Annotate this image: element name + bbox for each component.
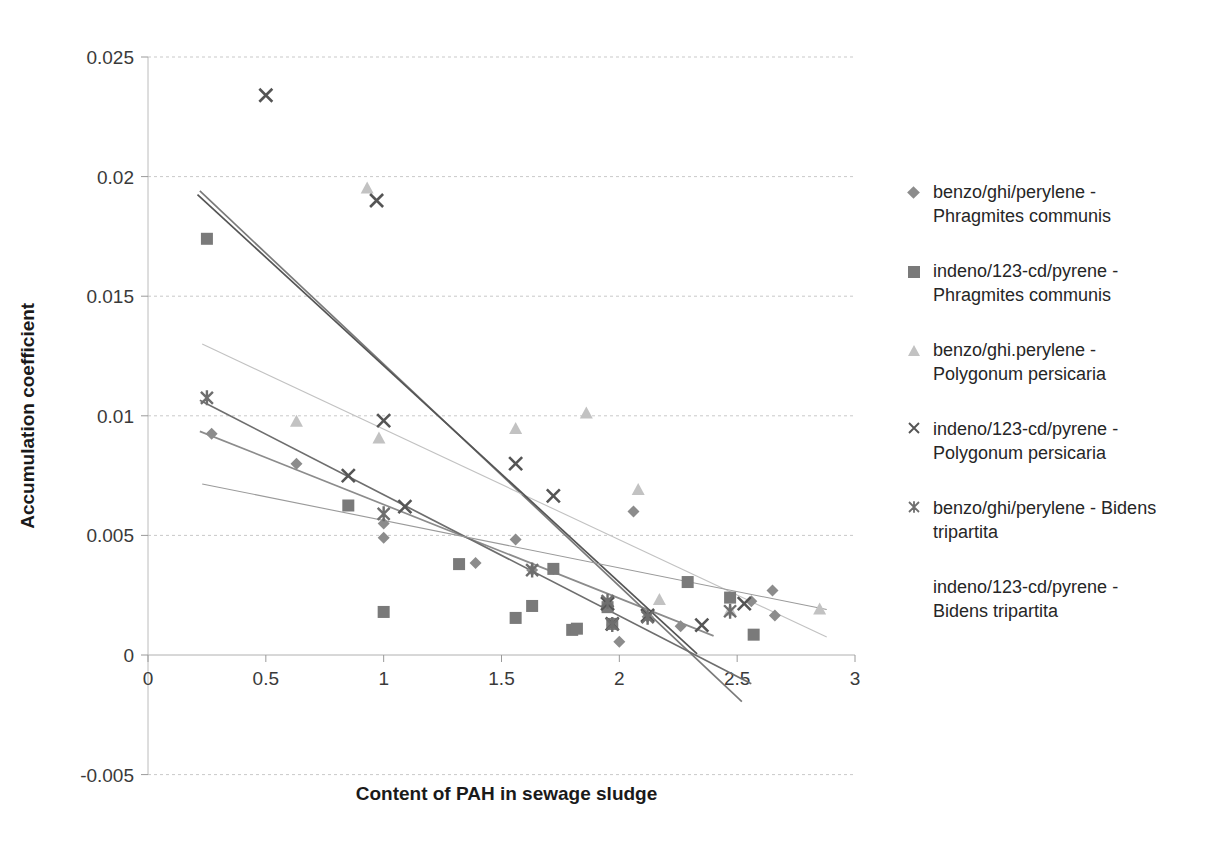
data-point xyxy=(653,593,666,605)
data-point xyxy=(724,592,736,604)
data-point xyxy=(632,483,645,495)
data-point xyxy=(767,584,779,596)
legend-item-label: indeno/123-cd/pyrene - Phragmites commun… xyxy=(933,259,1118,307)
legend-item[interactable]: indeno/123-cd/pyrene - Polygonum persica… xyxy=(905,417,1225,465)
data-point xyxy=(510,533,522,545)
legend-marker-square-icon xyxy=(905,261,927,283)
data-point xyxy=(378,532,390,544)
y-tick-label: 0.015 xyxy=(86,286,134,307)
data-point xyxy=(510,612,522,624)
legend-item[interactable]: indeno/123-cd/pyrene - Bidens tripartita xyxy=(905,575,1225,623)
data-point xyxy=(259,89,272,102)
chart-legend: benzo/ghi/perylene - Phragmites communis… xyxy=(905,180,1225,654)
legend-marker-cross-icon xyxy=(905,419,927,441)
data-point xyxy=(470,557,482,569)
data-point xyxy=(342,469,355,482)
data-point xyxy=(627,505,639,517)
gridlines xyxy=(148,57,855,775)
y-tick-label: 0.01 xyxy=(97,406,134,427)
data-point xyxy=(509,457,522,470)
x-axis-title: Content of PAH in sewage sludge xyxy=(356,783,658,804)
data-point xyxy=(453,558,465,570)
y-tick-label: -0.005 xyxy=(80,765,134,786)
legend-marker-triangle-icon xyxy=(905,340,927,362)
legend-item-label: indeno/123-cd/pyrene - Polygonum persica… xyxy=(933,417,1118,465)
data-point xyxy=(372,432,385,444)
data-point xyxy=(724,604,736,619)
data-point xyxy=(682,576,694,588)
x-tick-label: 3 xyxy=(850,668,861,689)
legend-item-label: benzo/ghi/perylene - Bidens tripartita xyxy=(933,496,1156,544)
x-tick-label: 2 xyxy=(614,668,625,689)
y-tick-label: 0 xyxy=(123,645,134,666)
data-point xyxy=(290,415,303,427)
trendline xyxy=(200,431,714,636)
legend-marker-star-icon xyxy=(905,498,927,520)
y-tick-label: 0.025 xyxy=(86,47,134,68)
y-tick-label: 0.02 xyxy=(97,167,134,188)
legend-item[interactable]: benzo/ghi/perylene - Phragmites communis xyxy=(905,180,1225,228)
x-tick-label: 1.5 xyxy=(488,668,514,689)
trendline xyxy=(197,195,697,654)
y-tick-labels: -0.00500.0050.010.0150.020.025 xyxy=(80,47,134,786)
plot-canvas: -0.00500.0050.010.0150.020.02500.511.522… xyxy=(0,0,880,846)
data-point xyxy=(378,506,390,521)
data-point xyxy=(201,390,213,405)
data-point xyxy=(613,636,625,648)
data-point xyxy=(526,600,538,612)
legend-item[interactable]: benzo/ghi/perylene - Bidens tripartita xyxy=(905,496,1225,544)
data-point xyxy=(675,620,687,632)
x-tick-labels: 00.511.522.53 xyxy=(143,668,861,689)
data-point xyxy=(378,606,390,618)
trendline xyxy=(202,484,827,610)
data-point xyxy=(370,194,383,207)
x-tick-label: 1 xyxy=(378,668,389,689)
legend-marker-diamond-icon xyxy=(905,182,927,204)
data-points xyxy=(201,89,826,648)
legend-marker-none-icon xyxy=(905,577,927,599)
scatter-chart: -0.00500.0050.010.0150.020.02500.511.522… xyxy=(0,0,880,846)
x-tick-label: 0 xyxy=(143,668,154,689)
data-point xyxy=(398,500,411,513)
chart-page: -0.00500.0050.010.0150.020.02500.511.522… xyxy=(0,0,1228,846)
x-tick-label: 0.5 xyxy=(253,668,279,689)
legend-item-label: benzo/ghi.perylene - Polygonum persicari… xyxy=(933,338,1106,386)
legend-item[interactable]: benzo/ghi.perylene - Polygonum persicari… xyxy=(905,338,1225,386)
legend-item-label: indeno/123-cd/pyrene - Bidens tripartita xyxy=(933,575,1118,623)
legend-item[interactable]: indeno/123-cd/pyrene - Phragmites commun… xyxy=(905,259,1225,307)
data-point xyxy=(580,406,593,418)
y-axis-title: Accumulation coefficient xyxy=(17,302,38,529)
legend-item-label: benzo/ghi/perylene - Phragmites communis xyxy=(933,180,1111,228)
data-point xyxy=(509,422,522,434)
data-point xyxy=(361,182,374,194)
data-point xyxy=(342,500,354,512)
trendline xyxy=(200,400,751,683)
y-tick-label: 0.005 xyxy=(86,525,134,546)
data-point xyxy=(547,489,560,502)
data-point xyxy=(547,563,559,575)
data-point xyxy=(201,233,213,245)
data-point xyxy=(748,629,760,641)
data-point xyxy=(695,619,708,632)
data-point xyxy=(571,623,583,635)
trendlines xyxy=(197,191,826,702)
